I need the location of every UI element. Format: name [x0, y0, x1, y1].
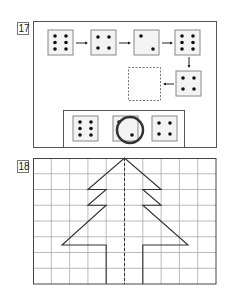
sequence-die-4-six	[175, 30, 200, 55]
sequence-die-1-six	[48, 30, 73, 55]
exercise-18-label: 18	[19, 161, 31, 172]
sequence-die-2-four	[91, 30, 116, 55]
sequence-die-3-two	[134, 30, 159, 55]
arrow-right-icon	[162, 42, 173, 45]
option-die-two-selected[interactable]	[113, 116, 143, 143]
answer-options-box	[64, 111, 185, 148]
arrow-right-icon	[119, 42, 131, 45]
option-die-four[interactable]	[152, 116, 177, 141]
arrow-down-icon	[188, 57, 191, 68]
arrow-right-icon	[76, 42, 88, 45]
arrow-left-icon	[163, 83, 174, 86]
worksheet-canvas: 17	[0, 0, 228, 306]
sequence-die-5-four	[176, 71, 201, 96]
exercise-18: 18	[18, 158, 217, 284]
option-die-six[interactable]	[73, 116, 98, 141]
missing-die-placeholder[interactable]	[129, 68, 161, 101]
exercise-17: 17	[18, 22, 218, 148]
exercise-17-label: 17	[19, 23, 31, 34]
